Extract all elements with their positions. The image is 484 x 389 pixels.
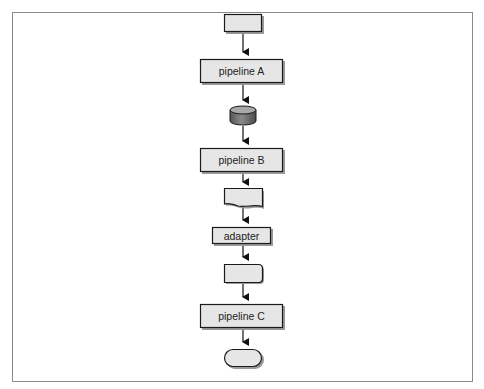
node-pipeline-c: pipeline C xyxy=(201,305,286,331)
pipeline-c-label: pipeline C xyxy=(218,310,265,322)
node-start xyxy=(225,15,265,35)
node-output xyxy=(225,265,265,285)
node-adapter: adapter xyxy=(213,228,274,247)
adapter-label: adapter xyxy=(224,230,260,242)
node-pipeline-a: pipeline A xyxy=(201,60,286,86)
pipeline-b-label: pipeline B xyxy=(218,154,264,166)
node-end-terminator xyxy=(225,350,265,370)
node-pipeline-b: pipeline B xyxy=(201,149,286,175)
pipeline-a-label: pipeline A xyxy=(219,65,265,77)
flowchart-diagram: pipeline A pipeline B adapter pipeline C xyxy=(0,0,484,389)
node-data-store-cylinder xyxy=(230,106,256,125)
